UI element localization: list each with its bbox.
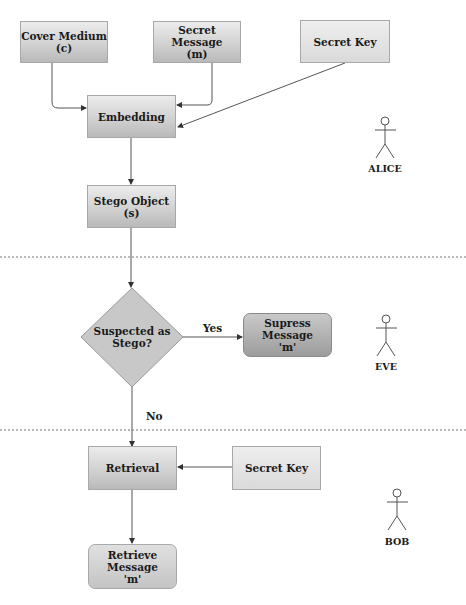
embedding-box: Embedding <box>87 95 176 138</box>
stego-object-box: Stego Object (s) <box>87 185 176 228</box>
eve-actor-icon <box>376 315 397 356</box>
alice-actor-icon <box>375 117 396 158</box>
eve-label: EVE <box>356 361 416 372</box>
alice-label: ALICE <box>355 163 415 174</box>
secret-key-box-bob: Secret Key <box>232 446 321 490</box>
decision-label: Suspected as Stego? <box>90 320 174 354</box>
bob-actor-icon <box>387 489 408 530</box>
connector-layer <box>0 0 466 605</box>
yes-label: Yes <box>203 322 222 334</box>
retrieve-message-box: Retrieve Message 'm' <box>88 544 177 589</box>
retrieval-box: Retrieval <box>88 446 177 490</box>
no-label: No <box>146 410 163 422</box>
cover-medium-box: Cover Medium (c) <box>20 21 108 63</box>
bob-label: BOB <box>367 536 427 547</box>
secret-message-box: Secret Message (m) <box>153 21 241 63</box>
suppress-message-box: Supress Message 'm' <box>243 313 332 357</box>
secret-key-box-alice: Secret Key <box>300 20 390 63</box>
